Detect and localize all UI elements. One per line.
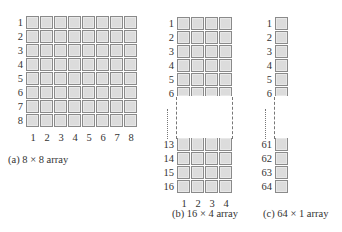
array-cell	[124, 30, 137, 43]
array-cell	[275, 87, 288, 96]
array-cell	[110, 58, 123, 71]
array-cell	[26, 16, 39, 29]
array-cell	[124, 86, 137, 99]
row-label: 4	[5, 59, 23, 71]
row-label: 2	[5, 31, 23, 43]
row-label: 8	[5, 115, 23, 127]
row-label: 5	[5, 73, 23, 85]
break-dots	[265, 109, 266, 139]
row-label: 3	[5, 45, 23, 57]
array-cell	[124, 44, 137, 57]
row-label: 4	[254, 60, 272, 72]
array-cell	[219, 138, 232, 151]
array-cell	[54, 16, 67, 29]
array-cell	[26, 44, 39, 57]
array-cell	[68, 58, 81, 71]
array-cell	[110, 30, 123, 43]
array-cell	[40, 100, 53, 113]
array-cell	[54, 86, 67, 99]
array-cell	[68, 100, 81, 113]
row-label: 14	[156, 153, 174, 165]
array-cell	[54, 100, 67, 113]
array-cell	[177, 59, 190, 72]
array-cell	[205, 45, 218, 58]
array-cell	[177, 73, 190, 86]
array-cell	[96, 72, 109, 85]
row-label: 15	[156, 167, 174, 179]
row-label: 5	[254, 74, 272, 86]
array-cell	[191, 87, 204, 96]
array-cell	[205, 87, 218, 96]
array-cell	[191, 152, 204, 165]
array-cell	[82, 30, 95, 43]
col-label: 2	[40, 132, 54, 144]
col-label: 4	[68, 132, 82, 144]
array-cell	[191, 59, 204, 72]
array-cell	[177, 87, 190, 96]
array-cell	[96, 86, 109, 99]
array-cell	[26, 58, 39, 71]
array-cell	[219, 73, 232, 86]
array-cell	[177, 152, 190, 165]
array-cell	[54, 58, 67, 71]
array-cell	[82, 72, 95, 85]
array-cell	[205, 180, 218, 193]
array-cell	[110, 72, 123, 85]
array-cell	[96, 100, 109, 113]
row-label: 5	[156, 74, 174, 86]
array-cell	[205, 73, 218, 86]
array-cell	[68, 44, 81, 57]
row-label: 4	[156, 60, 174, 72]
array-cell	[275, 166, 288, 179]
array-cell	[68, 72, 81, 85]
array-cell	[275, 59, 288, 72]
array-cell	[191, 166, 204, 179]
array-cell	[219, 17, 232, 30]
col-label: 6	[96, 132, 110, 144]
array-cell	[40, 72, 53, 85]
array-cell	[82, 100, 95, 113]
row-label: 3	[156, 46, 174, 58]
array-cell	[68, 16, 81, 29]
array-cell	[124, 100, 137, 113]
array-cell	[219, 87, 232, 96]
array-cell	[124, 72, 137, 85]
array-cell	[26, 30, 39, 43]
row-label: 61	[254, 139, 272, 151]
row-label: 13	[156, 139, 174, 151]
array-cell	[40, 44, 53, 57]
array-cell	[191, 73, 204, 86]
row-label: 63	[254, 167, 272, 179]
row-label: 3	[254, 46, 272, 58]
array-cell	[96, 114, 109, 127]
array-cell	[177, 17, 190, 30]
array-cell	[275, 180, 288, 193]
array-cell	[177, 45, 190, 58]
array-cell	[205, 31, 218, 44]
array-cell	[26, 72, 39, 85]
col-label: 7	[110, 132, 124, 144]
array-cell	[275, 73, 288, 86]
array-cell	[275, 45, 288, 58]
array-cell	[124, 58, 137, 71]
array-cell	[205, 138, 218, 151]
row-label: 64	[254, 181, 272, 193]
array-cell	[68, 30, 81, 43]
array-cell	[275, 31, 288, 44]
array-cell	[96, 58, 109, 71]
caption-a: (a) 8 × 8 array	[8, 154, 68, 165]
array-cell	[205, 166, 218, 179]
array-cell	[275, 152, 288, 165]
array-cell	[40, 86, 53, 99]
array-cell	[40, 58, 53, 71]
row-label: 2	[156, 32, 174, 44]
row-label: 1	[5, 17, 23, 29]
array-cell	[205, 59, 218, 72]
array-cell	[26, 114, 39, 127]
array-cell	[54, 72, 67, 85]
array-cell	[96, 16, 109, 29]
array-cell	[68, 114, 81, 127]
row-label: 6	[5, 87, 23, 99]
array-cell	[124, 114, 137, 127]
array-cell	[177, 180, 190, 193]
